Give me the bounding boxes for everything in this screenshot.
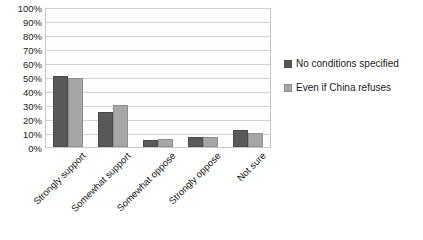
bar (188, 137, 203, 147)
y-axis-tick-label: 20% (2, 116, 42, 125)
bar-groups (46, 9, 270, 147)
plot-area (45, 8, 271, 148)
bar (98, 112, 113, 147)
legend-label: No conditions specified (296, 58, 399, 69)
y-axis-tick-label: 40% (2, 88, 42, 97)
bar-group (137, 9, 180, 147)
bar (203, 137, 218, 147)
y-axis-tick-label: 90% (2, 18, 42, 27)
bar (68, 78, 83, 147)
bar (158, 139, 173, 147)
y-axis-tick-label: 70% (2, 46, 42, 55)
bar (233, 130, 248, 147)
y-axis-tick-label: 50% (2, 74, 42, 83)
bar-group (92, 9, 135, 147)
y-axis-tick-label: 0% (2, 144, 42, 153)
bar (113, 105, 128, 147)
legend-label: Even if China refuses (296, 82, 391, 93)
legend-item: No conditions specified (284, 58, 419, 69)
bar (53, 76, 68, 147)
legend-item: Even if China refuses (284, 82, 419, 93)
chart-legend: No conditions specifiedEven if China ref… (284, 58, 419, 106)
bar-group (226, 9, 269, 147)
bar (143, 140, 158, 147)
legend-swatch-icon (284, 84, 292, 92)
bar-chart: 100%90%80%70%60%50%40%30%20%10%0% Strong… (0, 0, 423, 240)
y-axis-tick-label: 100% (2, 4, 42, 13)
y-axis-tick-label: 80% (2, 32, 42, 41)
bar-group (47, 9, 90, 147)
y-axis-tick-label: 60% (2, 60, 42, 69)
legend-swatch-icon (284, 60, 292, 68)
y-axis-tick-label: 10% (2, 130, 42, 139)
bar (248, 133, 263, 147)
y-axis-tick-label: 30% (2, 102, 42, 111)
bar-group (182, 9, 225, 147)
x-axis: Strongly supportSomewhat supportSomewhat… (45, 150, 271, 220)
